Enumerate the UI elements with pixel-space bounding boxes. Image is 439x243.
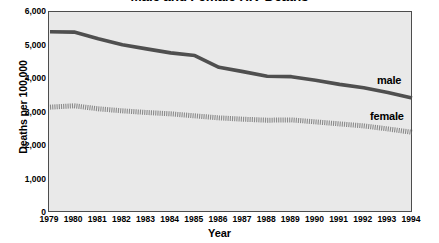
series-line-female [50,106,412,132]
x-tick-label: 1994 [394,214,428,224]
series-label-female: female [370,110,404,122]
y-tick-label: 4,000 [2,74,46,82]
y-axis-tick-labels: 01,0002,0003,0004,0005,0006,000 [0,0,46,243]
x-axis-tick-labels: 1979198019811982198319841985198619871988… [0,214,439,228]
y-tick-label: 1,000 [2,175,46,183]
y-tick-label: 3,000 [2,108,46,116]
series-line-male [50,32,412,98]
y-tick-label: 6,000 [2,7,46,15]
x-axis-title: Year [0,227,439,239]
y-tick-label: 2,000 [2,141,46,149]
plot-area [48,11,412,212]
hiv-deaths-line-chart: Male and Female HIV Deaths Deaths per 10… [0,0,439,243]
series-label-male: male [377,74,401,86]
plot-svg [49,12,413,213]
chart-title: Male and Female HIV Deaths [0,0,439,4]
y-tick-label: 5,000 [2,41,46,49]
